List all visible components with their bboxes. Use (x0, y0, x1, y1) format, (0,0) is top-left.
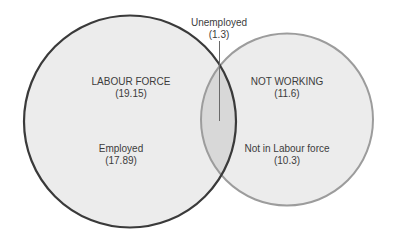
not-working-value: (11.6) (251, 88, 324, 100)
unemployed-label: Unemployed (1.3) (191, 17, 247, 41)
employed-label: Employed (17.89) (99, 143, 143, 167)
employed-title: Employed (99, 143, 143, 155)
not-in-labour-force-label: Not in Labour force (10.3) (244, 143, 329, 167)
not-in-labour-force-title: Not in Labour force (244, 143, 329, 155)
not-working-title: NOT WORKING (251, 76, 324, 88)
labour-force-label: LABOUR FORCE (19.15) (92, 76, 171, 100)
not-in-labour-force-value: (10.3) (244, 155, 329, 167)
venn-diagram: Unemployed (1.3) LABOUR FORCE (19.15) Em… (0, 0, 394, 236)
employed-value: (17.89) (99, 155, 143, 167)
unemployed-title: Unemployed (191, 17, 247, 29)
labour-force-title: LABOUR FORCE (92, 76, 171, 88)
unemployed-value: (1.3) (191, 29, 247, 41)
labour-force-value: (19.15) (92, 88, 171, 100)
not-working-label: NOT WORKING (11.6) (251, 76, 324, 100)
